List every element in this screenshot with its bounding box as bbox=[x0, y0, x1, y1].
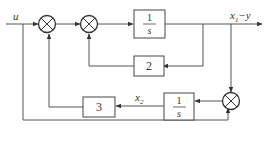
feedback-gain3-to-sum1 bbox=[49, 34, 83, 107]
summing-junction-3 bbox=[223, 93, 240, 110]
feedback-gain2-to-sum2 bbox=[89, 34, 134, 66]
output-label: x1−y bbox=[229, 9, 251, 24]
feedback-to-gain2 bbox=[163, 24, 203, 66]
summing-junction-2 bbox=[81, 16, 98, 33]
gain-3-label: 3 bbox=[96, 100, 102, 114]
gain-block-3: 3 bbox=[83, 97, 115, 117]
state-x2-label: x2 bbox=[134, 91, 144, 106]
block-diagram: u 1 s x1−y 2 bbox=[0, 0, 269, 146]
gain-2-label: 2 bbox=[146, 59, 152, 73]
integrator-block-1: 1 s bbox=[134, 10, 165, 38]
integrator-1-numerator: 1 bbox=[147, 12, 152, 23]
gain-block-2: 2 bbox=[134, 56, 164, 76]
integrator-1-denominator: s bbox=[148, 25, 152, 36]
integrator-block-2: 1 s bbox=[164, 93, 194, 120]
integrator-2-numerator: 1 bbox=[177, 95, 182, 106]
summing-junction-1 bbox=[39, 16, 56, 33]
integrator-2-denominator: s bbox=[177, 108, 181, 119]
input-label: u bbox=[13, 10, 19, 22]
